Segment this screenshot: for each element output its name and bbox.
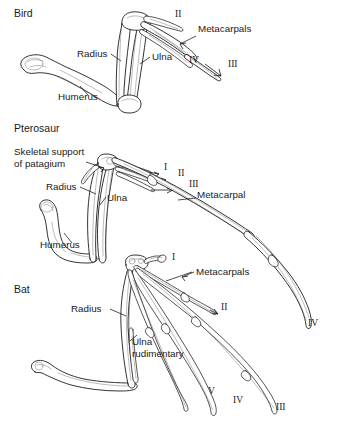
pterosaur-digit-iv-wing-finger xyxy=(244,231,311,328)
bat-digit-label-iii: III xyxy=(276,402,286,412)
bird-label-radius: Radius xyxy=(77,48,108,59)
bird-metacarpals-leader xyxy=(180,36,196,44)
bird-label-humerus: Humerus xyxy=(58,91,98,102)
bat-label-ulna-line2: rudimentary xyxy=(132,348,184,359)
pterosaur-taxon-label: Pterosaur xyxy=(14,122,60,134)
pterosaur-digit-label-iii: III xyxy=(189,179,199,189)
bat-digit-label-iv: IV xyxy=(233,395,243,405)
bird-label-metacarpals: Metacarpals xyxy=(198,23,251,34)
bird-panel: Bird Radius Ulna Humerus Metacarpals II … xyxy=(14,7,251,113)
bat-taxon-label: Bat xyxy=(14,283,30,295)
pterosaur-label-radius: Radius xyxy=(46,181,77,192)
bat-metacarpals-arrow xyxy=(182,276,188,281)
bat-metacarpals-leader-2 xyxy=(166,272,192,281)
pterosaur-label-humerus: Humerus xyxy=(40,239,80,250)
bat-digit-i-thumb xyxy=(144,255,166,264)
pterosaur-label-patagium-line2: of patagium xyxy=(14,158,65,169)
bat-digit-label-i: I xyxy=(172,252,175,262)
comparative-wing-skeleton-figure: Bird Radius Ulna Humerus Metacarpals II … xyxy=(0,0,338,424)
pterosaur-label-metacarpal: Metacarpal xyxy=(197,189,245,200)
pterosaur-digit-label-iv: IV xyxy=(308,318,318,328)
figure-canvas: Bird Radius Ulna Humerus Metacarpals II … xyxy=(0,0,338,424)
bat-digit-label-ii: II xyxy=(221,302,227,312)
bird-label-ulna: Ulna xyxy=(152,51,173,62)
bat-label-metacarpals: Metacarpals xyxy=(196,266,249,277)
bat-label-radius: Radius xyxy=(71,303,102,314)
pterosaur-label-ulna: Ulna xyxy=(107,192,128,203)
pterosaur-digit-label-i: I xyxy=(164,162,167,172)
bird-digit-label-iv: IV xyxy=(189,55,199,65)
bat-digit-label-v: V xyxy=(208,386,215,396)
bat-humerus-bone xyxy=(31,360,137,391)
pterosaur-label-patagium-line1: Skeletal support xyxy=(14,146,85,157)
bat-panel: Bat Radius Ulna rudimentary Metacarpals … xyxy=(14,252,286,416)
bird-digit-label-iii: III xyxy=(228,59,238,69)
bird-taxon-label: Bird xyxy=(14,7,33,19)
bat-label-ulna-line1: Ulna xyxy=(132,336,153,347)
bird-digit-label-ii: II xyxy=(175,9,181,19)
pterosaur-digit-label-ii: II xyxy=(178,168,184,178)
